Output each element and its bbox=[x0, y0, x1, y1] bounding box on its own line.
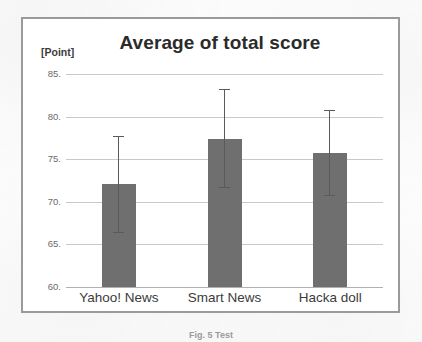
error-bar-line bbox=[224, 89, 225, 187]
error-bar-cap-upper bbox=[324, 110, 335, 111]
y-tick-label: 65. bbox=[21, 238, 61, 249]
error-bar-cap-lower bbox=[324, 195, 335, 196]
bar[interactable] bbox=[102, 184, 136, 287]
y-axis-unit-label: [Point] bbox=[41, 46, 74, 58]
error-bar-cap-lower bbox=[219, 187, 230, 188]
bar-group[interactable] bbox=[102, 74, 136, 287]
error-bar-cap-upper bbox=[113, 136, 124, 137]
y-tick-label: 85. bbox=[21, 68, 61, 79]
error-bar-line bbox=[329, 110, 330, 195]
x-tick-label: Smart News bbox=[172, 290, 278, 305]
y-tick-label: 60. bbox=[21, 281, 61, 292]
error-bar-line bbox=[118, 136, 119, 231]
y-tick-label: 70. bbox=[21, 196, 61, 207]
x-tick-label: Yahoo! News bbox=[66, 290, 172, 305]
chart-title: Average of total score bbox=[95, 32, 345, 54]
figure-caption: Fig. 5 Test bbox=[0, 330, 422, 342]
bar-group[interactable] bbox=[208, 74, 242, 287]
bar[interactable] bbox=[313, 153, 347, 287]
bar[interactable] bbox=[208, 139, 242, 287]
bar-group[interactable] bbox=[313, 74, 347, 287]
error-bar-cap-lower bbox=[113, 232, 124, 233]
plot-area: 85.80.75.70.65.60. Yahoo! NewsSmart News… bbox=[66, 74, 383, 287]
y-tick-label: 80. bbox=[21, 111, 61, 122]
x-tick-label: Hacka doll bbox=[277, 290, 383, 305]
gridline bbox=[66, 287, 383, 288]
y-tick-label: 75. bbox=[21, 153, 61, 164]
chart-canvas: Average of total score [Point] 85.80.75.… bbox=[23, 19, 398, 311]
figure-frame: Average of total score [Point] 85.80.75.… bbox=[21, 17, 400, 313]
error-bar-cap-upper bbox=[219, 89, 230, 90]
